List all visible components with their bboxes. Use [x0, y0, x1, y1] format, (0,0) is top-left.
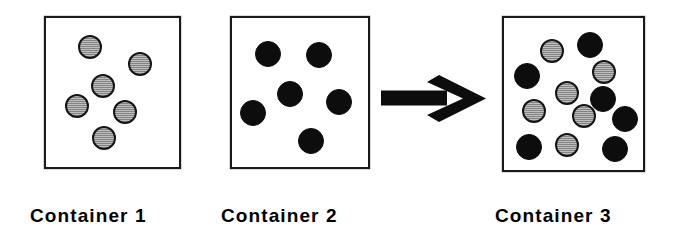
black-particle: [298, 128, 324, 154]
black-particle: [306, 42, 332, 68]
gray-particle: [555, 81, 579, 105]
gray-particle: [92, 126, 116, 150]
container-2-label: Container 2: [221, 206, 338, 225]
gray-particle: [540, 39, 564, 63]
gray-particle: [113, 100, 137, 124]
right-arrow-icon: [381, 75, 487, 123]
black-particle: [602, 136, 628, 162]
container-3-label: Container 3: [495, 206, 612, 225]
black-particle: [577, 32, 603, 58]
gray-particle: [128, 52, 152, 76]
right-arrow-svg: [381, 75, 487, 123]
black-particle: [514, 63, 540, 89]
container-1-label: Container 1: [30, 206, 147, 225]
arrow-shaft-shape: [381, 91, 447, 106]
gray-particle: [572, 104, 596, 128]
black-particle: [255, 41, 281, 67]
black-particle: [240, 100, 266, 126]
gray-particle: [65, 94, 89, 118]
black-particle: [612, 106, 638, 132]
gray-particle: [522, 99, 546, 123]
black-particle: [326, 89, 352, 115]
black-particle: [277, 81, 303, 107]
black-particle: [590, 86, 616, 112]
gray-particle: [91, 74, 115, 98]
diagram-canvas: Container 1 Container 2 Container 3: [0, 0, 691, 250]
gray-particle: [555, 133, 579, 157]
gray-particle: [78, 35, 102, 59]
gray-particle: [592, 60, 616, 84]
black-particle: [516, 134, 542, 160]
